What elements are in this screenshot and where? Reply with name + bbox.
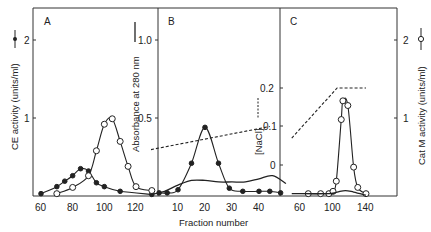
data-point: [86, 173, 92, 179]
data-point: [333, 178, 339, 184]
x-axis-b: 10 20 30 40 Fraction number: [172, 202, 265, 228]
data-point: [340, 98, 346, 104]
left-axis-label: CE activity (units/ml): [9, 63, 20, 150]
data-point: [203, 125, 208, 130]
a-xtick-100: 100: [96, 202, 113, 213]
x-axis-c: 60 100 140: [294, 202, 374, 213]
data-point: [93, 148, 99, 154]
panel-label-c: C: [290, 16, 297, 27]
data-point: [355, 184, 361, 190]
data-point: [268, 189, 273, 194]
data-point: [176, 187, 181, 192]
c-xtick-100: 100: [324, 202, 341, 213]
panel-label-a: A: [44, 16, 51, 27]
nacl-tick-0: 0: [270, 160, 276, 171]
data-point: [70, 173, 75, 178]
data-point: [257, 189, 262, 194]
data-point: [125, 163, 131, 169]
absorbance-axis: 1.0 0.5 Absorbance at 280 nm: [130, 22, 158, 152]
data-point: [94, 180, 99, 185]
b-xtick-20: 20: [199, 202, 211, 213]
b-xtick-30: 30: [226, 202, 238, 213]
data-point: [62, 179, 67, 184]
b-xtick-40: 40: [253, 202, 265, 213]
abs-tick-1: 1.0: [138, 35, 152, 46]
absorbance-axis-label: Absorbance at 280 nm: [130, 56, 141, 152]
series-line: [151, 127, 270, 150]
c-xtick-60: 60: [294, 202, 306, 213]
data-point: [149, 188, 155, 194]
data-point: [118, 189, 123, 194]
series-line: [292, 88, 366, 138]
data-point: [109, 116, 115, 122]
a-xtick-80: 80: [67, 202, 79, 213]
left-axis: 1 2 CE activity (units/ml): [9, 30, 36, 150]
right-axis: 2 1 Cat M activity (units/ml): [394, 28, 427, 165]
right-axis-label: Cat M activity (units/ml): [416, 66, 427, 165]
data-point: [102, 184, 107, 189]
data-point: [101, 121, 107, 127]
panel-label-b: B: [168, 16, 175, 27]
data-point: [216, 161, 221, 166]
nacl-tick-02: 0.2: [260, 83, 274, 94]
data-point: [70, 184, 76, 190]
left-tick-1: 1: [24, 113, 30, 124]
data-point: [278, 191, 283, 196]
left-tick-2: 2: [24, 35, 30, 46]
right-tick-2: 2: [403, 35, 409, 46]
b-xtick-10: 10: [172, 202, 184, 213]
nacl-axis: 0.2 0.1 0 [NaCl]: [253, 83, 283, 171]
right-tick-1: 1: [403, 113, 409, 124]
data-point: [133, 184, 139, 190]
c-xtick-140: 140: [357, 202, 374, 213]
data-point: [39, 191, 44, 196]
figure: A B C 1 2 CE activity (units/ml) 1.0 0.5…: [0, 0, 431, 232]
data-point: [363, 191, 369, 197]
data-curves: [39, 88, 369, 197]
data-point: [189, 161, 194, 166]
x-axis-label: Fraction number: [179, 217, 248, 228]
a-xtick-60: 60: [35, 202, 47, 213]
data-point: [54, 191, 60, 197]
data-point: [351, 164, 357, 170]
filled-circle-legend-icon: [13, 30, 17, 48]
a-xtick-120: 120: [127, 202, 144, 213]
data-point: [117, 138, 123, 144]
data-point: [227, 186, 232, 191]
x-axis-a: 60 80 100 120: [35, 202, 144, 213]
data-point: [345, 103, 351, 109]
data-point: [78, 166, 83, 171]
nacl-axis-label: [NaCl]: [253, 129, 264, 155]
data-point: [241, 189, 246, 194]
nacl-tick-01: 0.1: [263, 121, 277, 132]
data-point: [338, 117, 344, 123]
open-circle-legend-icon: [418, 28, 423, 50]
data-point: [55, 184, 60, 189]
